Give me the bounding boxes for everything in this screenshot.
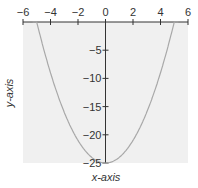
- x-tick-label: 0: [102, 6, 108, 18]
- y-tick-label: −15: [83, 101, 102, 113]
- x-axis-label: x-axis: [91, 171, 121, 183]
- y-axis-label: y-axis: [3, 78, 15, 108]
- x-tick-label: −2: [72, 6, 85, 18]
- x-tick-label: 2: [130, 6, 136, 18]
- x-tick-label: −4: [44, 6, 57, 18]
- y-tick-label: −25: [83, 157, 102, 169]
- parabola-chart: −6−4−20246 −5−10−15−20−25 x-axis y-axis: [0, 0, 198, 188]
- y-tick-label: −20: [83, 129, 102, 141]
- y-tick-label: −10: [83, 72, 102, 84]
- x-tick-label: −6: [17, 6, 30, 18]
- x-tick-label: 4: [157, 6, 163, 18]
- x-tick-label: 6: [185, 6, 191, 18]
- x-tick-labels: −6−4−20246: [17, 6, 191, 18]
- y-tick-label: −5: [89, 44, 102, 56]
